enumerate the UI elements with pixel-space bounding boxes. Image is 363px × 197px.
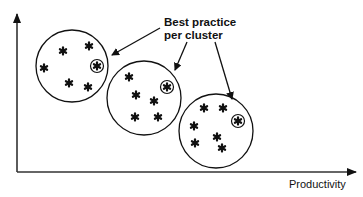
cluster-boundary [107,61,181,135]
best-practice-callout: Best practice per cluster [164,16,236,42]
asterisk-icon [192,139,198,146]
x-axis-label: Productivity [289,178,346,190]
best-practice-asterisk-icon [164,83,170,90]
asterisk-icon [133,91,139,98]
callout-arrow-1 [112,28,160,55]
callout-line-2: per cluster [164,29,236,42]
asterisk-icon [85,83,91,90]
cluster-3 [179,94,253,168]
callout-arrow-3 [215,42,232,99]
cluster-boundary [179,94,253,168]
asterisk-icon [60,47,66,54]
callout-arrow-2 [175,42,187,70]
asterisk-icon [41,64,47,71]
asterisk-icon [66,79,72,86]
best-practice-asterisk-icon [235,117,241,124]
asterisk-icon [201,104,207,111]
asterisk-icon [220,104,226,111]
asterisk-icon [214,133,220,140]
asterisk-icon [191,122,197,129]
asterisk-icon [126,73,132,80]
asterisk-icon [151,97,157,104]
best-practice-asterisk-icon [94,62,100,69]
asterisk-icon [219,144,225,151]
cluster-1 [36,30,108,102]
asterisk-icon [132,113,138,120]
asterisk-icon [86,42,92,49]
asterisk-icon [155,113,161,120]
clusters [36,30,253,168]
cluster-2 [107,61,181,135]
callout-line-1: Best practice [164,16,236,29]
